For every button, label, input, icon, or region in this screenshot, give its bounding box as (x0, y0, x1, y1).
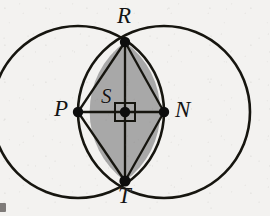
point-label-P: P (54, 97, 68, 120)
point-label-T: T (118, 184, 131, 207)
point-P (73, 107, 83, 117)
point-N (159, 107, 169, 117)
point-label-S: S (101, 86, 112, 107)
figure-canvas (0, 0, 270, 216)
point-label-R: R (117, 4, 131, 27)
page-edge-artifact (0, 203, 6, 212)
geometry-figure: R T P N S (0, 0, 270, 216)
point-label-N: N (175, 98, 190, 121)
point-S (120, 107, 130, 117)
point-R (120, 37, 130, 47)
